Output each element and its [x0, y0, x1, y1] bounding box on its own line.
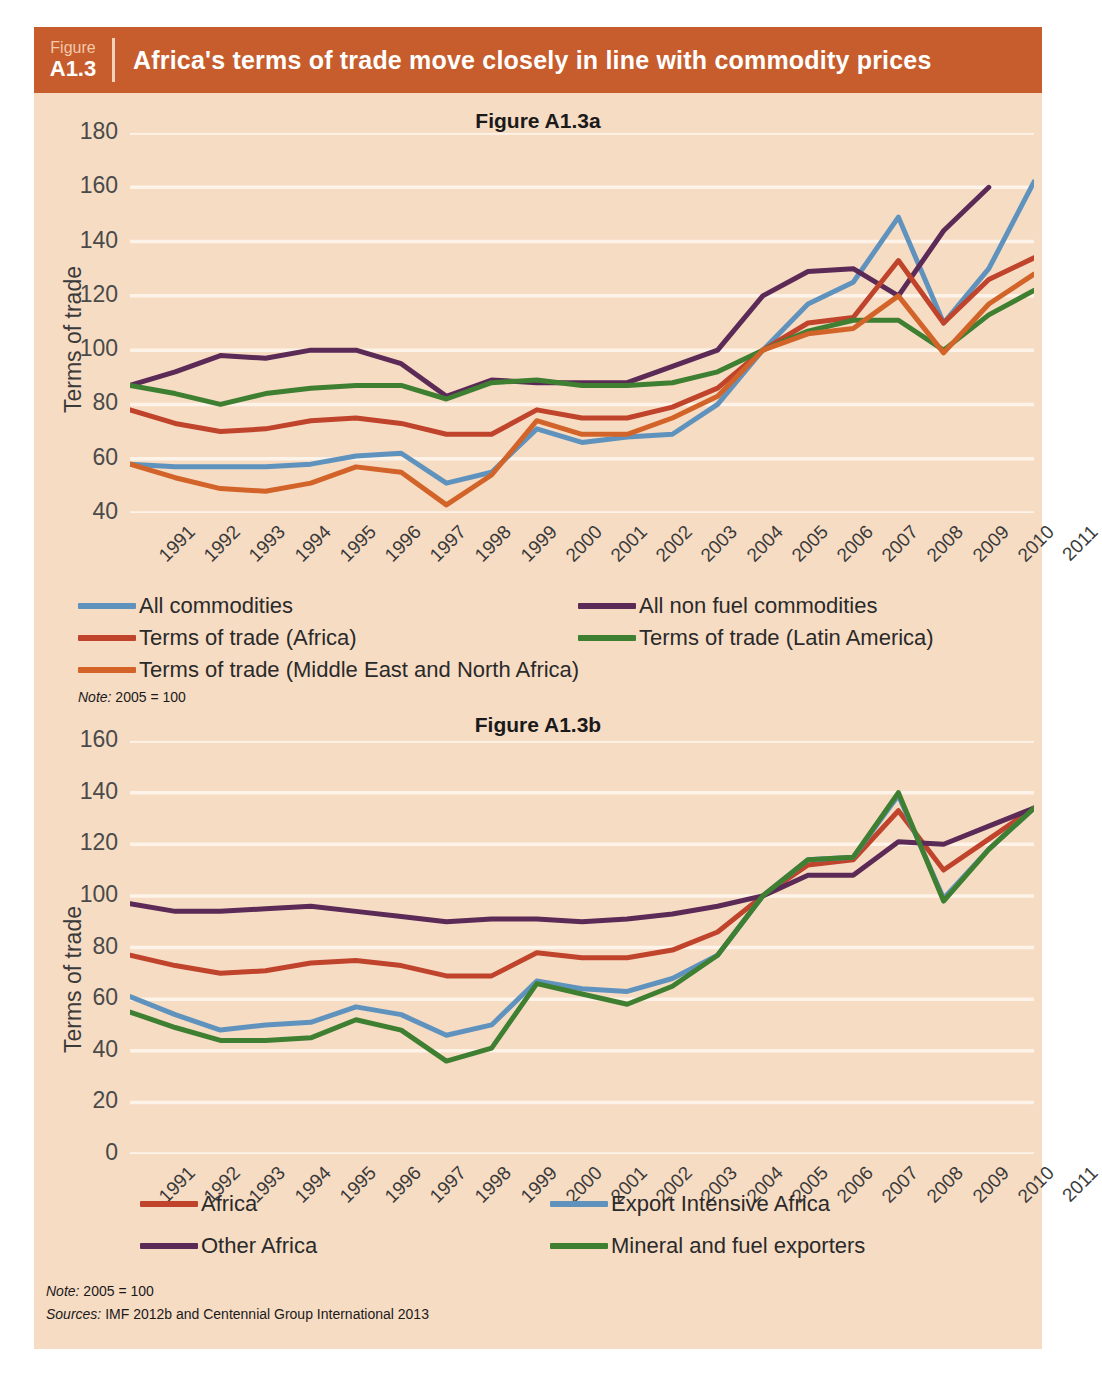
x-tick-label: 2006 [832, 1162, 877, 1207]
legend-swatch [78, 635, 136, 641]
x-tick-label: 1994 [290, 1162, 335, 1207]
y-tick-label: 0 [66, 1139, 118, 1166]
y-tick-label: 160 [66, 726, 118, 753]
x-tick-label: 2011 [1058, 521, 1102, 565]
x-tick-label: 2008 [923, 1162, 968, 1207]
y-tick-label: 40 [66, 498, 118, 525]
legend-swatch [140, 1243, 198, 1249]
x-tick-label: 2009 [968, 1162, 1013, 1207]
chart-b-plot [130, 741, 1034, 1154]
x-tick-label: 1996 [380, 521, 425, 566]
sources-text: IMF 2012b and Centennial Group Internati… [101, 1306, 429, 1322]
header-divider [112, 38, 115, 82]
x-tick-label: 2008 [923, 521, 968, 566]
x-tick-label: 2002 [652, 521, 697, 566]
figure-body: Figure A1.3a Terms of trade 180160140120… [34, 93, 1042, 1349]
x-tick-label: 2011 [1058, 1162, 1102, 1206]
figure-number: A1.3 [50, 57, 96, 80]
y-tick-label: 120 [66, 281, 118, 308]
x-tick-label: 2000 [561, 521, 606, 566]
legend-label: Africa [201, 1191, 257, 1217]
x-tick-label: 1996 [380, 1162, 425, 1207]
legend-swatch [578, 603, 636, 609]
legend-swatch [78, 667, 136, 673]
y-tick-label: 80 [66, 389, 118, 416]
chart-a-note: Note: 2005 = 100 [78, 689, 186, 705]
legend-swatch [140, 1201, 198, 1207]
y-tick-label: 60 [66, 444, 118, 471]
x-tick-label: 2007 [878, 521, 923, 566]
x-tick-label: 1992 [200, 521, 245, 566]
page-edge-bottom [0, 1349, 1062, 1379]
x-tick-label: 2001 [606, 521, 651, 566]
chart-a-title: Figure A1.3a [34, 109, 1042, 133]
x-tick-label: 2007 [878, 1162, 923, 1207]
series-line [130, 808, 1034, 922]
page-edge-left [0, 0, 34, 1379]
series-line [130, 258, 1034, 434]
legend-item[interactable]: All commodities [78, 593, 293, 619]
chart-a-svg [130, 133, 1034, 513]
figure-number-word: Figure [50, 40, 95, 57]
x-tick-label: 2004 [742, 521, 787, 566]
legend-label: Terms of trade (Middle East and North Af… [139, 657, 579, 683]
sources-line: Sources: IMF 2012b and Centennial Group … [46, 1306, 429, 1322]
legend-swatch [578, 635, 636, 641]
legend-swatch [78, 603, 136, 609]
legend-label: Other Africa [201, 1233, 317, 1259]
legend-label: Mineral and fuel exporters [611, 1233, 865, 1259]
chart-b-svg [130, 741, 1034, 1154]
legend-item[interactable]: Other Africa [140, 1233, 317, 1259]
x-tick-label: 2009 [968, 521, 1013, 566]
series-line [130, 808, 1034, 976]
series-line [130, 290, 1034, 404]
legend-item[interactable]: Terms of trade (Middle East and North Af… [78, 657, 579, 683]
legend-swatch [550, 1201, 608, 1207]
legend-label: Terms of trade (Africa) [139, 625, 357, 651]
legend-label: All commodities [139, 593, 293, 619]
sources-label: Sources: [46, 1306, 101, 1322]
y-tick-label: 180 [66, 118, 118, 145]
x-tick-label: 2006 [832, 521, 877, 566]
legend-swatch [550, 1243, 608, 1249]
legend-label: Export Intensive Africa [611, 1191, 830, 1217]
y-tick-label: 80 [66, 933, 118, 960]
chart-b-note: Note: 2005 = 100 [46, 1283, 154, 1299]
y-tick-label: 100 [66, 881, 118, 908]
legend-item[interactable]: Africa [140, 1191, 257, 1217]
x-tick-label: 1999 [516, 521, 561, 566]
y-axis-label: Terms of trade [60, 906, 87, 1053]
legend-label: Terms of trade (Latin America) [639, 625, 934, 651]
y-tick-label: 100 [66, 335, 118, 362]
x-tick-label: 2005 [787, 521, 832, 566]
legend-item[interactable]: Export Intensive Africa [550, 1191, 830, 1217]
series-line [130, 793, 1034, 1061]
legend-item[interactable]: All non fuel commodities [578, 593, 877, 619]
y-tick-label: 140 [66, 778, 118, 805]
series-line [130, 187, 989, 396]
y-tick-label: 60 [66, 984, 118, 1011]
y-tick-label: 20 [66, 1087, 118, 1114]
x-tick-label: 1993 [245, 521, 290, 566]
x-tick-label: 1994 [290, 521, 335, 566]
x-tick-label: 1997 [426, 1162, 471, 1207]
chart-a-plot [130, 133, 1034, 513]
figure-number-block: Figure A1.3 [34, 27, 112, 93]
y-tick-label: 120 [66, 829, 118, 856]
x-tick-label: 1997 [426, 521, 471, 566]
x-tick-label: 1991 [154, 521, 199, 566]
legend-item[interactable]: Terms of trade (Latin America) [578, 625, 934, 651]
y-tick-label: 160 [66, 172, 118, 199]
legend-item[interactable]: Terms of trade (Africa) [78, 625, 357, 651]
x-tick-label: 1998 [471, 1162, 516, 1207]
legend-item[interactable]: Mineral and fuel exporters [550, 1233, 865, 1259]
x-tick-label: 2003 [697, 521, 742, 566]
legend-label: All non fuel commodities [639, 593, 877, 619]
chart-a-note-text: 2005 = 100 [111, 689, 185, 705]
chart-b-note-text: 2005 = 100 [79, 1283, 153, 1299]
chart-b-note-label: Note: [46, 1283, 79, 1299]
figure-header: Figure A1.3 Africa's terms of trade move… [34, 27, 1042, 93]
chart-b-title: Figure A1.3b [34, 713, 1042, 737]
series-line [130, 182, 1034, 483]
